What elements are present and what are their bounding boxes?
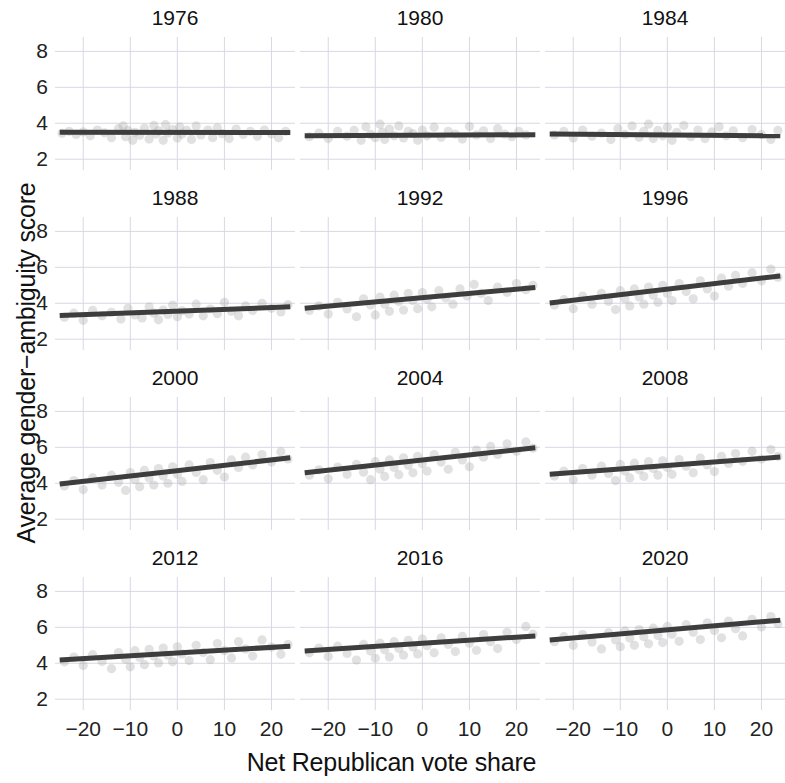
y-tick-label: 6 xyxy=(36,615,48,639)
x-tick-label: 20 xyxy=(505,717,528,741)
facet-panel-1996: 1996 xyxy=(545,217,785,350)
facet-title-1984: 1984 xyxy=(545,6,785,30)
plot-area-2016 xyxy=(300,577,540,710)
facet-panel-2004: 2004 xyxy=(300,397,540,530)
facet-title-1988: 1988 xyxy=(55,186,295,210)
plot-area-1992 xyxy=(300,217,540,350)
facet-title-2020: 2020 xyxy=(545,546,785,570)
x-tick-label: 20 xyxy=(750,717,773,741)
facet-title-2008: 2008 xyxy=(545,366,785,390)
facet-panel-1992: 1992 xyxy=(300,217,540,350)
x-tick-label: 10 xyxy=(703,717,726,741)
gridlines xyxy=(545,37,785,170)
x-tick-label: −20 xyxy=(310,717,346,741)
regression-line xyxy=(60,458,291,484)
regression-line xyxy=(550,134,781,136)
gridlines xyxy=(300,217,540,350)
facet-title-1976: 1976 xyxy=(55,6,295,30)
facet-panel-2012: 20122468−20−1001020 xyxy=(55,577,295,710)
y-tick-label: 2 xyxy=(36,327,48,351)
x-tick-label: −10 xyxy=(357,717,393,741)
y-tick-label: 4 xyxy=(36,471,48,495)
y-tick-label: 2 xyxy=(36,507,48,531)
plot-area-1976 xyxy=(55,37,295,170)
gridlines xyxy=(55,37,295,170)
data-points xyxy=(550,612,783,654)
x-tick-label: −20 xyxy=(65,717,101,741)
x-tick-label: 20 xyxy=(260,717,283,741)
y-tick-label: 4 xyxy=(36,651,48,675)
plot-area-2008 xyxy=(545,397,785,530)
facet-panel-2000: 20002468 xyxy=(55,397,295,530)
x-tick-label: 0 xyxy=(417,717,429,741)
y-tick-label: 8 xyxy=(36,219,48,243)
regression-line xyxy=(305,135,536,136)
gridlines xyxy=(300,37,540,170)
x-tick-label: 0 xyxy=(662,717,674,741)
facet-panel-2020: 2020−20−1001020 xyxy=(545,577,785,710)
facet-title-1996: 1996 xyxy=(545,186,785,210)
facet-panel-1976: 19762468 xyxy=(55,37,295,170)
y-tick-label: 4 xyxy=(36,111,48,135)
regression-line xyxy=(305,448,536,473)
facet-title-2012: 2012 xyxy=(55,546,295,570)
plot-area-2012 xyxy=(55,577,295,710)
x-tick-label: 10 xyxy=(458,717,481,741)
y-tick-label: 8 xyxy=(36,399,48,423)
plot-area-1984 xyxy=(545,37,785,170)
y-tick-label: 8 xyxy=(36,579,48,603)
x-tick-label: −10 xyxy=(602,717,638,741)
facet-panel-1984: 1984 xyxy=(545,37,785,170)
y-tick-label: 6 xyxy=(36,435,48,459)
plot-area-1996 xyxy=(545,217,785,350)
x-tick-label: 0 xyxy=(172,717,184,741)
y-tick-label: 2 xyxy=(36,687,48,711)
x-axis-title: Net Republican vote share xyxy=(0,748,783,777)
x-tick-label: −20 xyxy=(555,717,591,741)
plot-area-1988 xyxy=(55,217,295,350)
y-tick-label: 6 xyxy=(36,75,48,99)
facet-title-2016: 2016 xyxy=(300,546,540,570)
plot-area-2000 xyxy=(55,397,295,530)
plot-area-2004 xyxy=(300,397,540,530)
facet-panel-2016: 2016−20−1001020 xyxy=(300,577,540,710)
y-tick-label: 6 xyxy=(36,255,48,279)
y-tick-label: 4 xyxy=(36,291,48,315)
facet-panel-1988: 19882468 xyxy=(55,217,295,350)
gridlines xyxy=(55,217,295,350)
regression-line xyxy=(550,276,781,303)
x-tick-label: −10 xyxy=(112,717,148,741)
facet-title-2004: 2004 xyxy=(300,366,540,390)
facet-title-1992: 1992 xyxy=(300,186,540,210)
plot-area-1980 xyxy=(300,37,540,170)
y-tick-label: 2 xyxy=(36,147,48,171)
facet-panel-1980: 1980 xyxy=(300,37,540,170)
plot-area-2020 xyxy=(545,577,785,710)
x-tick-label: 10 xyxy=(213,717,236,741)
facet-title-2000: 2000 xyxy=(55,366,295,390)
y-tick-label: 8 xyxy=(36,39,48,63)
facet-panel-2008: 2008 xyxy=(545,397,785,530)
facet-title-1980: 1980 xyxy=(300,6,540,30)
